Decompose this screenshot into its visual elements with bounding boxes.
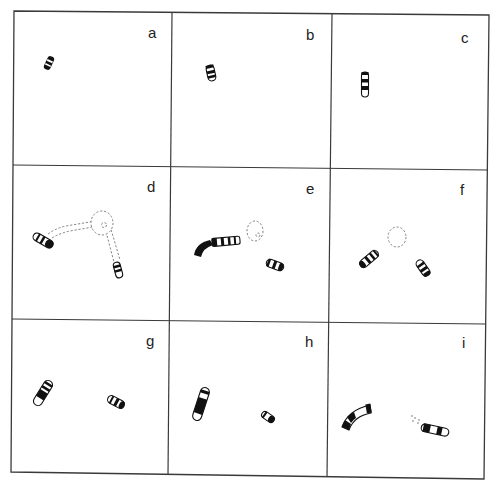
row-divider-2 bbox=[12, 319, 486, 324]
panel-e-chromosomes bbox=[194, 221, 285, 272]
outer-frame bbox=[11, 11, 489, 479]
panel-label-e: e bbox=[306, 180, 314, 197]
panel-i-chromosomes bbox=[342, 404, 450, 437]
chromosome-figure: a b c d e f g h i bbox=[0, 0, 497, 484]
column-divider-2 bbox=[327, 14, 332, 477]
panel-label-c: c bbox=[461, 29, 469, 46]
panel-label-g: g bbox=[146, 332, 154, 349]
panel-label-i: i bbox=[462, 334, 465, 351]
dashed-circle bbox=[388, 227, 406, 247]
panel-label-d: d bbox=[147, 178, 155, 195]
column-divider-1 bbox=[168, 13, 172, 475]
panel-grid bbox=[11, 11, 489, 479]
dashed-arm-left bbox=[48, 219, 95, 238]
row-divider-1 bbox=[13, 165, 488, 170]
panel-h-chromosomes bbox=[191, 386, 275, 423]
dashed-circle bbox=[247, 221, 263, 241]
panel-c-chromosome bbox=[362, 72, 369, 97]
panel-label-h: h bbox=[305, 333, 313, 350]
panel-f-chromosomes bbox=[358, 227, 431, 278]
panel-label-a: a bbox=[148, 24, 157, 41]
panel-label-f: f bbox=[460, 181, 465, 198]
panel-b-chromosome bbox=[205, 64, 216, 81]
panel-label-b: b bbox=[306, 26, 314, 43]
panel-g-chromosomes bbox=[32, 379, 126, 410]
panel-d-chromosomes bbox=[32, 211, 124, 279]
panel-a-chromosome bbox=[43, 55, 55, 71]
